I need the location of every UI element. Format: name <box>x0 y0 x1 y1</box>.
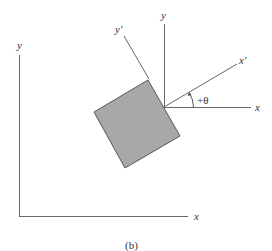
rotated-square <box>94 80 180 168</box>
rotated-x-label: x′ <box>238 54 247 66</box>
local-x-label: x <box>254 101 260 113</box>
local-y-label: y <box>160 9 166 21</box>
figure-caption: (b) <box>125 239 138 251</box>
rotated-y-label: y′ <box>114 23 123 35</box>
fixed-x-label: x <box>193 210 199 222</box>
rotated-y-axis <box>124 36 149 79</box>
rotation-diagram: y x y x x′ y′ +θ (b) <box>0 0 272 251</box>
angle-label: +θ <box>197 94 208 106</box>
fixed-y-label: y <box>16 39 22 51</box>
